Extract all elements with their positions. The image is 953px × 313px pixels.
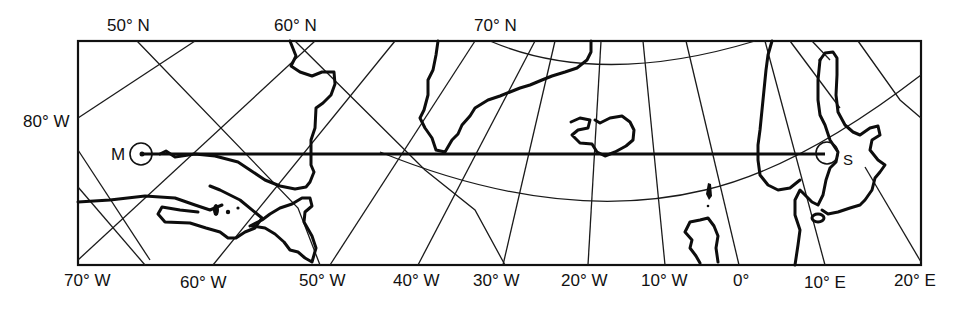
- map-canvas: [0, 0, 953, 313]
- coast-labrador: [160, 41, 335, 189]
- coast-ungava: [158, 186, 262, 238]
- coast-hudson: [78, 196, 222, 210]
- coast-gulf: [820, 52, 885, 214]
- coast-iceland: [571, 116, 634, 156]
- coast-scotland: [685, 218, 718, 263]
- parallel-arc-upper: [490, 41, 755, 65]
- coast-norway: [758, 41, 800, 190]
